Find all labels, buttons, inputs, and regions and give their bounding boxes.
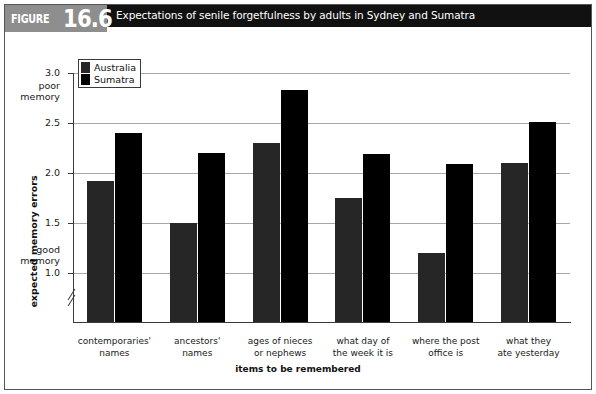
bar-australia-1 (170, 223, 197, 322)
bar-australia-4 (418, 253, 445, 322)
xtick-label-3-line2: the week it is (322, 348, 405, 360)
bar-australia-3 (335, 198, 362, 322)
bar-sumatra-0 (115, 133, 142, 322)
bar-australia-2 (253, 143, 280, 322)
bar-sumatra-4 (446, 164, 473, 322)
xtick-label-0: contemporaries' names (73, 336, 156, 359)
y-axis-title-holder: expected memory errors (14, 60, 28, 310)
bars-layer (73, 73, 570, 322)
legend-item-australia: Australia (81, 61, 136, 73)
xtick-label-0-line1: contemporaries' (73, 336, 156, 348)
xtick-label-2-line1: ages of nieces (239, 336, 322, 348)
ytick-label-3.0: 3.0 (24, 67, 60, 78)
bar-sumatra-1 (198, 153, 225, 322)
xtick-label-1-line2: names (156, 348, 239, 360)
xtick-label-4: where the post office is (404, 336, 487, 359)
legend-item-sumatra: Sumatra (81, 73, 136, 85)
x-axis-line (73, 322, 571, 323)
xtick-label-2: ages of nieces or nephews (239, 336, 322, 359)
legend-label-australia: Australia (94, 62, 136, 73)
xtick-label-1: ancestors' names (156, 336, 239, 359)
bar-australia-5 (501, 163, 528, 322)
bar-sumatra-5 (529, 122, 556, 322)
chart-canvas: 3.0 2.5 2.0 1.5 1.0 poor memory good mem… (0, 0, 596, 394)
xtick-label-0-line2: names (73, 348, 156, 360)
chart-legend: Australia Sumatra (78, 59, 141, 88)
xtick-label-5-line2: ate yesterday (487, 348, 570, 360)
legend-swatch-australia (81, 62, 90, 73)
xtick-label-2-line2: or nephews (239, 348, 322, 360)
bar-australia-0 (87, 181, 114, 322)
legend-label-sumatra: Sumatra (94, 74, 135, 85)
xtick-label-1-line1: ancestors' (156, 336, 239, 348)
xtick-label-5-line1: what they (487, 336, 570, 348)
xtick-label-5: what they ate yesterday (487, 336, 570, 359)
xtick-label-4-line1: where the post (404, 336, 487, 348)
xtick-label-3-line1: what day of (322, 336, 405, 348)
y-axis-title: expected memory errors (28, 147, 39, 337)
xtick-label-4-line2: office is (404, 348, 487, 360)
figure-page: FIGURE 16.6 Expectations of senile forge… (0, 0, 596, 394)
legend-swatch-sumatra (81, 74, 90, 85)
x-axis-title: items to be remembered (0, 364, 596, 374)
bar-sumatra-3 (363, 154, 390, 322)
bar-sumatra-2 (281, 90, 308, 322)
xtick-label-3: what day of the week it is (322, 336, 405, 359)
ytick-label-2.5: 2.5 (24, 117, 60, 128)
